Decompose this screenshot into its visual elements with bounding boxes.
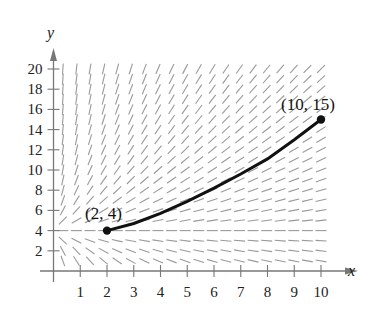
- y-tick-label: 10: [28, 162, 43, 178]
- slope-segment: [102, 104, 105, 115]
- slope-segment: [193, 220, 204, 222]
- slope-segment: [154, 177, 163, 184]
- slope-segment: [87, 175, 92, 185]
- slope-segment: [141, 135, 147, 144]
- slope-segment: [153, 198, 163, 203]
- slope-segment: [288, 220, 299, 221]
- slope-segment: [234, 260, 245, 263]
- slope-segment: [166, 259, 176, 263]
- slope-segment: [221, 199, 231, 202]
- slope-segment: [316, 209, 327, 211]
- slope-segment: [125, 219, 136, 222]
- slope-segment: [180, 240, 191, 241]
- slope-segment: [60, 206, 65, 216]
- slope-segment: [129, 74, 133, 84]
- slope-segment: [249, 147, 258, 153]
- x-tick-label: 8: [264, 284, 272, 300]
- slope-segment: [316, 250, 327, 251]
- slope-segment: [289, 147, 299, 152]
- slope-segment: [129, 64, 132, 74]
- slope-segment: [235, 126, 243, 133]
- y-tick-label: 8: [35, 182, 43, 198]
- slope-segment: [98, 239, 109, 242]
- slope-segment: [153, 219, 164, 221]
- slope-segment: [128, 145, 134, 154]
- slope-segment: [263, 85, 270, 93]
- slope-segment: [209, 105, 216, 114]
- slope-segment: [168, 156, 176, 164]
- slope-segment: [276, 116, 285, 123]
- slope-segment: [180, 220, 191, 222]
- slope-segment: [129, 94, 133, 104]
- slope-segment: [234, 250, 245, 252]
- solution-curve: [107, 120, 321, 231]
- slope-segment: [180, 250, 191, 252]
- slope-segment: [207, 177, 217, 182]
- slope-segment: [194, 188, 204, 193]
- slope-segment: [76, 104, 78, 115]
- slope-segment: [168, 146, 175, 154]
- slope-segment: [155, 125, 161, 134]
- slope-segment: [302, 250, 313, 251]
- slope-segment: [86, 248, 95, 254]
- slope-segment: [182, 105, 188, 114]
- slope-segment: [316, 137, 325, 143]
- x-tick-label: 5: [184, 284, 192, 300]
- slope-segment: [113, 258, 122, 264]
- slope-segment: [167, 198, 177, 202]
- slope-segment: [154, 156, 162, 164]
- slope-segment: [248, 209, 259, 211]
- slope-segment: [141, 166, 149, 174]
- slope-segment: [180, 188, 190, 193]
- slope-segment: [89, 84, 91, 95]
- slope-segment: [288, 250, 299, 251]
- slope-segment: [261, 250, 272, 252]
- slope-segment: [262, 178, 272, 182]
- slope-segment: [75, 134, 77, 145]
- slope-segment: [89, 94, 91, 105]
- slope-segment: [275, 178, 285, 182]
- slope-segment: [129, 104, 133, 114]
- slope-segment: [275, 209, 286, 211]
- slope-segment: [302, 178, 312, 182]
- slope-segment: [195, 115, 202, 123]
- slope-segment: [142, 84, 146, 94]
- slope-segment: [76, 64, 77, 75]
- slope-segment: [248, 178, 258, 182]
- slope-segment: [207, 220, 218, 222]
- slope-segment: [316, 189, 327, 192]
- slope-segment: [316, 240, 327, 241]
- slope-segment: [182, 74, 187, 84]
- slope-segment: [275, 199, 286, 202]
- slope-segment: [89, 64, 91, 75]
- slope-segment: [62, 94, 63, 105]
- slope-segment: [195, 105, 202, 114]
- slope-segment: [250, 75, 257, 84]
- slope-segment: [62, 114, 63, 125]
- slope-segment: [275, 188, 285, 191]
- slope-segment: [262, 168, 272, 173]
- slope-segment: [261, 260, 272, 262]
- slope-segment: [222, 126, 230, 134]
- y-tick-label: 6: [35, 202, 43, 218]
- slope-segment: [169, 105, 175, 114]
- slope-segment: [115, 145, 120, 155]
- slope-segment: [236, 95, 243, 103]
- slope-segment: [234, 209, 245, 211]
- x-tick-label: 6: [210, 284, 218, 300]
- slope-segment: [249, 136, 258, 143]
- slope-segment: [288, 209, 299, 211]
- slope-segment: [100, 176, 106, 185]
- slope-segment: [275, 168, 285, 173]
- slope-segment: [73, 247, 81, 255]
- slope-segment: [248, 250, 259, 252]
- slope-segment: [275, 220, 286, 221]
- slope-segment: [142, 104, 147, 114]
- slope-segment: [276, 137, 285, 143]
- slope-segment: [168, 135, 175, 143]
- slope-segment: [209, 64, 215, 73]
- slope-segment: [275, 260, 286, 262]
- slope-segment: [289, 116, 298, 123]
- slope-segment: [249, 95, 257, 103]
- slope-segment: [222, 95, 229, 104]
